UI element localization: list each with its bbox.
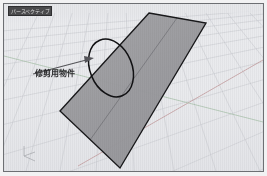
cad-screenshot-root: パースペクティブ 修剪用物件: [0, 0, 267, 176]
viewport-title-label[interactable]: パースペクティブ: [8, 6, 52, 16]
perspective-viewport[interactable]: パースペクティブ 修剪用物件: [3, 3, 264, 172]
annotation-text-label: 修剪用物件: [35, 69, 75, 79]
viewport-scene[interactable]: [4, 4, 263, 171]
